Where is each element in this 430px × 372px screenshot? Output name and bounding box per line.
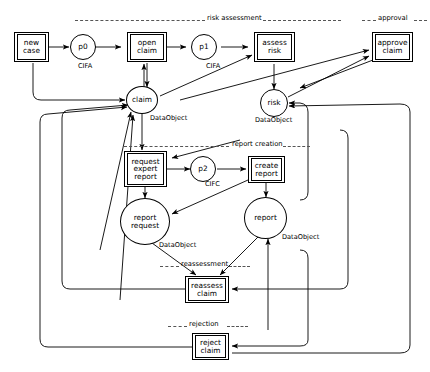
transition-approve-claim[interactable]: approve claim	[372, 32, 413, 62]
place-claim-object-label: DataObject	[150, 114, 187, 122]
transition-reject-claim-line-2: claim	[201, 347, 221, 355]
section-divider-reassessment-right	[229, 266, 250, 267]
section-label-risk-assessment: risk assessment	[207, 14, 262, 22]
transition-reassess-claim-line-2: claim	[197, 290, 217, 298]
section-divider-rejection-left	[168, 326, 187, 327]
place-p0-object-label: CIFA	[78, 62, 92, 70]
transition-approve-claim-line-2: claim	[383, 47, 403, 55]
transition-reject-claim[interactable]: reject claim	[192, 333, 229, 360]
place-report-request-line-2: request	[131, 222, 159, 230]
section-divider-approval-right	[414, 20, 427, 21]
section-label-approval: approval	[378, 14, 408, 22]
transition-create-report-line-2: report	[255, 170, 278, 178]
place-risk-label: risk	[267, 99, 280, 107]
transition-open-claim[interactable]: open claim	[127, 32, 167, 62]
transition-reassess-claim[interactable]: reassess claim	[185, 276, 229, 303]
place-p2-object-label: CIFC	[205, 180, 220, 188]
section-label-report-creation: report creation	[232, 140, 283, 148]
transition-create-report[interactable]: create report	[248, 156, 285, 183]
transition-assess-risk-line-2: risk	[268, 47, 281, 55]
section-divider-report-creation-left	[124, 146, 229, 147]
place-risk[interactable]: risk	[260, 89, 288, 117]
section-divider-risk-assessment-right	[263, 20, 341, 21]
place-report-label: report	[254, 214, 277, 222]
transition-assess-risk[interactable]: assess risk	[254, 32, 295, 62]
transition-request-expert-report-line-3: report	[134, 173, 157, 181]
place-p2-label: p2	[198, 165, 207, 173]
place-p0[interactable]: p0	[70, 34, 96, 60]
section-divider-risk-assessment-left	[75, 20, 205, 21]
section-label-rejection: rejection	[189, 320, 219, 328]
place-risk-object-label: DataObject	[255, 116, 292, 124]
section-divider-approval-left	[362, 20, 376, 21]
place-p2[interactable]: p2	[190, 156, 216, 182]
place-p0-label: p0	[78, 43, 87, 51]
place-claim[interactable]: claim	[126, 86, 158, 114]
section-divider-rejection-right	[227, 326, 248, 327]
place-claim-label: claim	[132, 96, 152, 104]
section-divider-reassessment-left	[160, 266, 179, 267]
place-p1-label: p1	[199, 43, 208, 51]
transition-request-expert-report[interactable]: request expert report	[124, 151, 167, 187]
transition-new-case[interactable]: new case	[14, 32, 49, 62]
place-report-object-label: DataObject	[282, 233, 319, 241]
section-divider-report-creation-right	[283, 146, 310, 147]
place-p1-object-label: CIFA	[206, 62, 220, 70]
transition-open-claim-line-2: claim	[137, 47, 157, 55]
place-report-request[interactable]: report request	[120, 198, 170, 245]
place-report[interactable]: report	[244, 197, 287, 239]
place-p1[interactable]: p1	[191, 34, 217, 60]
section-label-reassessment: reassessment	[181, 260, 228, 268]
diagram-canvas: risk assessment approval report creation…	[0, 0, 430, 372]
transition-new-case-line-2: case	[23, 47, 40, 55]
place-report-request-object-label: DataObject	[159, 241, 196, 249]
